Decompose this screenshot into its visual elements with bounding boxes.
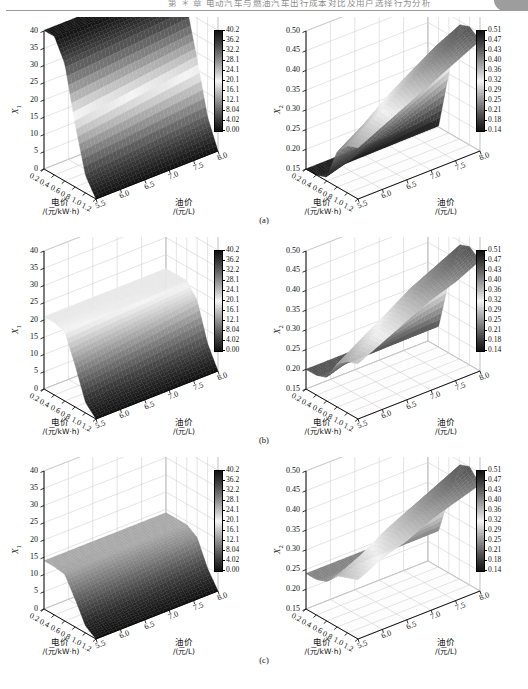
colorbar-tick-label: 0.00 (226, 565, 239, 574)
colorbar (214, 30, 223, 132)
colorbar-tick-label: 4.02 (226, 555, 239, 564)
plot-b-left-x1: 0510152025303540X10.20.40.60.81.01.25.56… (4, 237, 262, 435)
z-axis-title: X2 (272, 325, 284, 334)
z-tick-label: 5 (34, 146, 38, 155)
colorbar-tick-label: 0.43 (488, 265, 501, 274)
colorbar-tick-label: 0.00 (226, 125, 239, 134)
colorbar-tick-label: 12.1 (226, 95, 239, 104)
colorbar-tick-mark (484, 110, 487, 111)
colorbar-tick-label: 0.18 (488, 555, 501, 564)
colorbar-tick-mark (222, 300, 225, 301)
colorbar-tick-label: 36.2 (226, 475, 239, 484)
colorbar-tick-label: 0.36 (488, 285, 501, 294)
colorbar-tick-mark (484, 510, 487, 511)
panel-caption-c: (c) (0, 655, 528, 665)
colorbar-tick-mark (222, 110, 225, 111)
z-tick-label: 10 (30, 129, 38, 138)
z-tick-label: 20 (30, 95, 38, 104)
colorbar-tick-label: 0.51 (488, 25, 501, 34)
colorbar-tick-mark (484, 100, 487, 101)
colorbar-tick-mark (484, 30, 487, 31)
z-tick-label: 30 (30, 280, 38, 289)
z-tick-label: 35 (30, 483, 38, 492)
z-tick-label: 0.40 (286, 65, 300, 74)
colorbar-tick-label: 0.00 (226, 345, 239, 354)
colorbar-tick-label: 0.32 (488, 75, 501, 84)
colorbar-tick-label: 0.40 (488, 495, 501, 504)
plot-b-right-x2: 0.150.200.250.300.350.400.450.50X20.20.4… (266, 237, 524, 435)
colorbar-tick-mark (484, 120, 487, 121)
colorbar-tick-mark (484, 540, 487, 541)
colorbar (476, 30, 485, 132)
colorbar-tick-mark (484, 300, 487, 301)
z-tick-label: 10 (30, 569, 38, 578)
z-tick-label: 35 (30, 263, 38, 272)
colorbar-tick-label: 0.43 (488, 485, 501, 494)
z-tick-label: 0 (34, 604, 38, 613)
colorbar-tick-label: 0.40 (488, 275, 501, 284)
colorbar-tick-label: 36.2 (226, 255, 239, 264)
z-tick-label: 0.25 (286, 124, 300, 133)
colorbar-tick-mark (484, 470, 487, 471)
colorbar-tick-label: 32.2 (226, 45, 239, 54)
colorbar-tick-label: 20.1 (226, 515, 239, 524)
colorbar-tick-label: 0.21 (488, 545, 501, 554)
colorbar-tick-label: 0.32 (488, 295, 501, 304)
colorbar-tick-mark (484, 40, 487, 41)
figure-panel-a: 0510152025303540X10.20.40.60.81.01.25.56… (0, 13, 528, 233)
colorbar-tick-mark (222, 130, 225, 131)
colorbar-tick-mark (222, 250, 225, 251)
z-tick-label: 40 (30, 466, 38, 475)
colorbar-tick-label: 20.1 (226, 295, 239, 304)
colorbar-tick-label: 0.40 (488, 55, 501, 64)
z-tick-label: 15 (30, 552, 38, 561)
z-tick-label: 25 (30, 517, 38, 526)
colorbar (476, 470, 485, 572)
colorbar-tick-label: 16.1 (226, 525, 239, 534)
colorbar-tick-mark (484, 330, 487, 331)
colorbar-tick-label: 0.18 (488, 335, 501, 344)
z-tick-label: 0.50 (286, 246, 300, 255)
figure-panel-b: 0510152025303540X10.20.40.60.81.01.25.56… (0, 233, 528, 453)
colorbar-tick-mark (484, 570, 487, 571)
colorbar-tick-label: 40.2 (226, 465, 239, 474)
z-tick-label: 0.30 (286, 104, 300, 113)
figure-panel-c: 0510152025303540X10.20.40.60.81.01.25.56… (0, 453, 528, 673)
colorbar (214, 250, 223, 352)
colorbar-tick-mark (222, 330, 225, 331)
colorbar-tick-mark (484, 350, 487, 351)
colorbar-tick-mark (222, 280, 225, 281)
z-tick-label: 5 (34, 586, 38, 595)
colorbar-tick-label: 0.36 (488, 505, 501, 514)
colorbar-tick-label: 0.14 (488, 125, 501, 134)
colorbar-tick-label: 4.02 (226, 115, 239, 124)
z-tick-label: 0.30 (286, 324, 300, 333)
z-axis-title: X1 (10, 325, 22, 334)
colorbar-tick-label: 0.29 (488, 85, 501, 94)
colorbar-tick-mark (484, 530, 487, 531)
z-tick-label: 0.45 (286, 45, 300, 54)
colorbar-tick-label: 16.1 (226, 85, 239, 94)
colorbar-tick-mark (222, 510, 225, 511)
z-tick-label: 0.35 (286, 305, 300, 314)
z-tick-label: 20 (30, 535, 38, 544)
running-head-text: 第 ＊ 章 电动汽车与燃油汽车出行成本对比及用户选择行为分析 (168, 0, 431, 8)
colorbar-tick-label: 28.1 (226, 495, 239, 504)
colorbar-tick-mark (484, 500, 487, 501)
colorbar-tick-mark (484, 520, 487, 521)
colorbar-tick-mark (222, 30, 225, 31)
colorbar-tick-mark (484, 280, 487, 281)
colorbar-tick-mark (222, 470, 225, 471)
z-tick-label: 0 (34, 164, 38, 173)
panel-caption-a: (a) (0, 215, 528, 225)
colorbar-tick-mark (484, 130, 487, 131)
colorbar-tick-label: 0.51 (488, 465, 501, 474)
colorbar-tick-mark (222, 80, 225, 81)
colorbar-tick-label: 0.14 (488, 345, 501, 354)
colorbar-tick-mark (222, 350, 225, 351)
colorbar-tick-label: 36.2 (226, 35, 239, 44)
colorbar-tick-mark (222, 550, 225, 551)
colorbar-tick-mark (222, 120, 225, 121)
colorbar-tick-label: 0.51 (488, 245, 501, 254)
colorbar-tick-mark (484, 90, 487, 91)
